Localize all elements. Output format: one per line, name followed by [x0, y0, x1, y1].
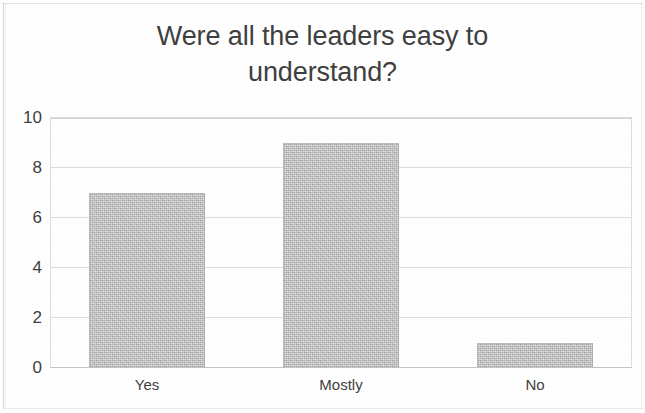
y-tick-label: 6 — [2, 208, 42, 228]
y-axis: 0246810 — [0, 118, 42, 368]
x-tick-label: Mostly — [244, 376, 438, 393]
bar[interactable] — [283, 143, 399, 368]
bar-chart-figure: Were all the leaders easy to understand?… — [0, 0, 645, 413]
x-tick-label: No — [438, 376, 632, 393]
page-border-top — [2, 3, 643, 4]
gridline-10 — [50, 117, 632, 118]
y-tick-label: 8 — [2, 158, 42, 178]
y-tick-label: 0 — [2, 358, 42, 378]
page-border-right — [641, 3, 642, 409]
x-tick-label: Yes — [50, 376, 244, 393]
y-tick-label: 10 — [2, 108, 42, 128]
y-tick-label: 4 — [2, 258, 42, 278]
plot-area — [50, 118, 632, 368]
chart-title: Were all the leaders easy to understand? — [40, 18, 605, 90]
x-axis-baseline — [50, 367, 632, 368]
bar[interactable] — [89, 193, 205, 368]
bar[interactable] — [477, 343, 593, 368]
page-border-bottom — [3, 408, 643, 409]
x-axis: YesMostlyNo — [50, 376, 632, 402]
y-tick-label: 2 — [2, 308, 42, 328]
